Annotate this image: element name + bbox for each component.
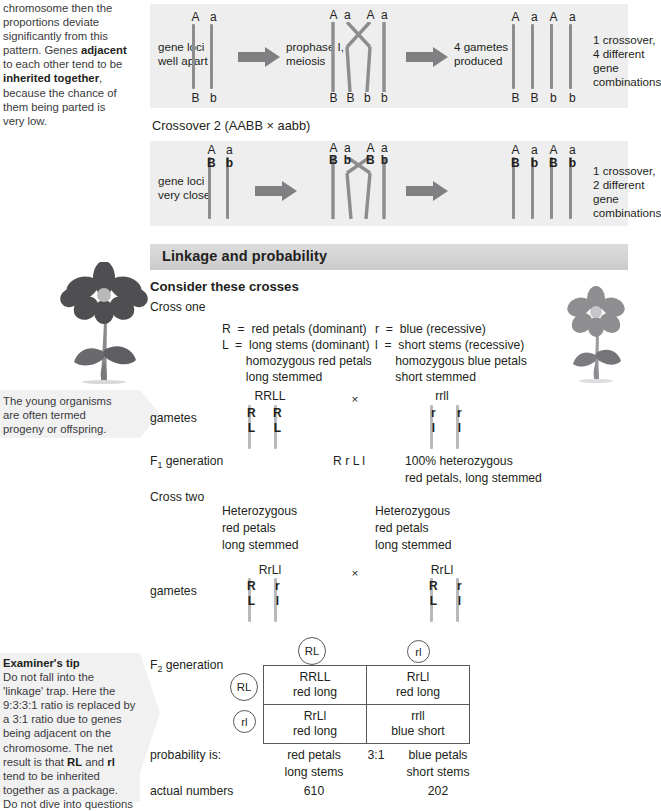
f1-generation-label: F1 generation bbox=[150, 454, 223, 474]
allele-label: B bbox=[546, 157, 560, 169]
red-petal-long-stem-flower bbox=[60, 262, 148, 384]
crossover-2-diagram: gene loci very close A a B b A a A a B b… bbox=[150, 141, 628, 226]
allele-label: L bbox=[426, 595, 440, 607]
f2-label-rest: generation bbox=[162, 658, 223, 672]
f1-note-line-1: 100% heterozygous bbox=[405, 454, 513, 470]
cross-two-parent-left-line: long stemmed bbox=[222, 538, 299, 554]
cross-two-parent-right-line: long stemmed bbox=[375, 538, 452, 554]
allele-label: a bbox=[527, 11, 541, 23]
punnett-column-gamete-1: RL bbox=[298, 637, 326, 665]
table-row: RrLl red long rrll blue short bbox=[264, 705, 470, 744]
allele-label: b bbox=[340, 154, 354, 166]
note-line: a 3:1 ratio due to genes bbox=[3, 712, 138, 726]
stage-3-label: 4 gametes produced bbox=[454, 40, 508, 68]
allele-label: A bbox=[188, 11, 202, 23]
note-bold-term: RL bbox=[67, 756, 82, 768]
note-text: , bbox=[99, 72, 102, 84]
allele-label: B bbox=[508, 92, 522, 104]
allele-label: b bbox=[206, 92, 220, 104]
punnett-column-gamete-2: rl bbox=[407, 640, 430, 663]
allele-label: a bbox=[377, 9, 391, 21]
note-bold-term: adjacent bbox=[81, 44, 127, 56]
actual-numbers-label: actual numbers bbox=[150, 784, 233, 800]
cross-one-key-right-line: r = blue (recessive) bbox=[375, 322, 486, 338]
allele-label: B bbox=[527, 92, 541, 104]
note-text: and bbox=[82, 756, 107, 768]
cross-two-parent-left-line: Heterozygous bbox=[222, 504, 297, 520]
note-line: because the chance of bbox=[3, 86, 138, 100]
punnett-cell-phenotype: red long bbox=[264, 685, 366, 700]
note-line: progeny or offspring. bbox=[3, 422, 135, 436]
probability-label: probability is: bbox=[150, 748, 221, 764]
cross-one-key-left-line: L = long stems (dominant) bbox=[222, 338, 370, 354]
punnett-cell-genotype: RrLl bbox=[367, 670, 469, 685]
note-line: inherited together, bbox=[3, 71, 138, 85]
process-arrow-icon bbox=[255, 181, 297, 201]
allele-label: l bbox=[270, 595, 284, 607]
note-bold-term: rl bbox=[107, 756, 115, 768]
f2-punnett-square: RRLL red long RrLl red long RrLl red lon… bbox=[263, 665, 470, 744]
crossing-chromatids bbox=[330, 22, 394, 92]
allele-label: b bbox=[360, 92, 374, 104]
note-text: pattern. Genes bbox=[3, 44, 81, 56]
allele-label: B bbox=[326, 154, 340, 166]
allele-label: A bbox=[546, 144, 560, 156]
examiners-tip-title: Examiner's tip bbox=[3, 656, 138, 670]
allele-label: B bbox=[326, 92, 340, 104]
progeny-definition-note: The young organisms are often termed pro… bbox=[0, 390, 160, 438]
cross-one-key-left-line: homozygous red petals bbox=[222, 354, 372, 370]
note-line: Do not fall into the bbox=[3, 670, 138, 684]
f1-note-line-2: red petals, long stemmed bbox=[405, 471, 542, 487]
cross-one-parent-left-genotype: RRLL bbox=[228, 389, 312, 405]
allele-label: a bbox=[565, 11, 579, 23]
probability-left-line-1: red petals bbox=[266, 748, 362, 764]
chromosome-bar bbox=[569, 24, 572, 89]
note-line: Do not dive into questions bbox=[3, 797, 138, 811]
chromosome-bar bbox=[512, 24, 515, 89]
note-text: result is that bbox=[3, 756, 67, 768]
allele-label: r bbox=[426, 407, 440, 419]
examiners-tip-note: Examiner's tip Do not fall into the 'lin… bbox=[0, 653, 160, 802]
cross-one-key-right-line: l = short stems (recessive) bbox=[375, 338, 524, 354]
allele-label: L bbox=[244, 422, 258, 434]
crossover-2-result-label: 1 crossover, 2 different gene combinatio… bbox=[593, 164, 661, 220]
punnett-cell-phenotype: blue short bbox=[367, 724, 469, 739]
cross-two-label: Cross two bbox=[150, 490, 204, 506]
note-line: significantly from this bbox=[3, 29, 138, 43]
allele-label: A bbox=[546, 11, 560, 23]
allele-label: B bbox=[508, 157, 522, 169]
f1-genotype: R r L l bbox=[333, 454, 365, 470]
cross-one-key-left-line: long stemmed bbox=[222, 370, 322, 386]
note-line: to each other tend to be bbox=[3, 57, 138, 71]
cross-one-label: Cross one bbox=[150, 300, 206, 316]
cross-one-parent-right-genotype: rrll bbox=[400, 389, 484, 405]
cross-one-key-left-line: R = red petals (dominant) bbox=[222, 322, 367, 338]
cross-one-gametes-label: gametes bbox=[150, 411, 197, 427]
note-line: them being parted is bbox=[3, 100, 138, 114]
cross-one-key-right-line: homozygous blue petals bbox=[375, 354, 527, 370]
note-bold-term: inherited together bbox=[3, 72, 99, 84]
cross-two-parent-left-line: red petals bbox=[222, 521, 276, 537]
allele-label: r bbox=[270, 580, 284, 592]
note-line: very low. bbox=[3, 114, 138, 128]
f2-generation-label: F2 generation bbox=[150, 658, 223, 678]
cross-two-gametes-label: gametes bbox=[150, 584, 197, 600]
cross-symbol: × bbox=[340, 391, 370, 407]
table-row: RRLL red long RrLl red long bbox=[264, 666, 470, 705]
probability-right-line-2: short stems bbox=[390, 765, 486, 781]
allele-label: B bbox=[204, 157, 218, 169]
allele-label: B bbox=[188, 92, 202, 104]
note-line: tend to be inherited bbox=[3, 769, 138, 783]
note-line: are often termed bbox=[3, 408, 135, 422]
punnett-cell: RRLL red long bbox=[264, 666, 367, 705]
punnett-cell-genotype: rrll bbox=[367, 709, 469, 724]
allele-label: b bbox=[377, 154, 391, 166]
punnett-cell-phenotype: red long bbox=[367, 685, 469, 700]
allele-label: R bbox=[426, 580, 440, 592]
probability-right-line-1: blue petals bbox=[390, 748, 486, 764]
allele-label: a bbox=[527, 144, 541, 156]
allele-label: r bbox=[452, 407, 466, 419]
allele-label: A bbox=[204, 144, 218, 156]
cross-symbol: × bbox=[340, 565, 370, 581]
note-line: being adjacent on the bbox=[3, 726, 138, 740]
